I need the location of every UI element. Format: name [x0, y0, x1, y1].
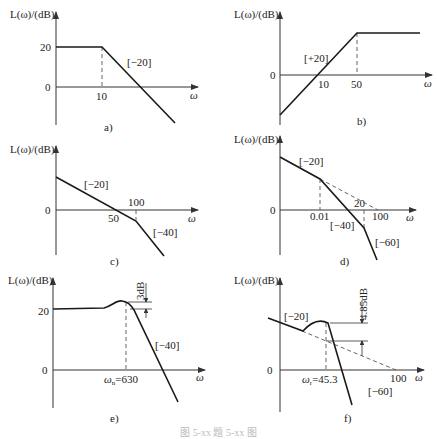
x-axis-label: ω	[190, 89, 198, 101]
tick-x-001: 0.01	[310, 210, 329, 222]
panel-label: a)	[104, 121, 113, 134]
slope-label-3: [−60]	[375, 236, 400, 248]
tick-y-0: 0	[270, 69, 276, 81]
tick-y-20: 20	[40, 41, 52, 53]
panel-b: L(ω)/(dB) ω 0 10 50 [+20] b)	[234, 8, 432, 128]
peak-label: 4.85dB	[357, 288, 369, 320]
slope-label-1: [−20]	[84, 178, 109, 190]
slope-label-2: [−40]	[330, 219, 355, 231]
slope-label: [−20]	[127, 56, 152, 68]
tick-y-0: 0	[42, 364, 48, 376]
y-axis-label: L(ω)/(dB)	[234, 274, 279, 287]
panel-label: b)	[357, 115, 367, 128]
y-axis-label: L(ω)/(dB)	[234, 8, 279, 21]
x-axis-label: ω	[188, 212, 196, 224]
tick-x-10: 10	[96, 90, 108, 102]
slope-label-1: [−20]	[299, 155, 324, 167]
x-axis-label: ω	[424, 77, 432, 89]
tick-x-20: 20	[354, 197, 366, 209]
y-axis-label: L(ω)/(dB)	[10, 8, 55, 21]
y-axis-label: L(ω)/(dB)	[234, 133, 279, 146]
magnitude-curve	[280, 33, 420, 115]
tick-y-0: 0	[270, 204, 276, 216]
tick-x-100: 100	[390, 372, 407, 384]
tick-x-100: 100	[372, 210, 389, 222]
magnitude-curve	[53, 301, 178, 402]
bode-figure: L(ω)/(dB) ω 20 0 10 [−20] a) L(ω)/(dB) ω…	[0, 0, 437, 439]
tick-x-10: 10	[318, 78, 330, 90]
panel-d: L(ω)/(dB) ω 0 0.01 20 100 [−20] [−40] [−…	[234, 133, 416, 268]
slope-label: [+20]	[304, 52, 329, 64]
slope-label-2: [−60]	[368, 385, 393, 397]
magnitude-curve	[56, 47, 175, 123]
tick-x-50: 50	[351, 78, 363, 90]
tick-x-wn: ωn=630	[104, 373, 138, 387]
x-axis-label: ω	[406, 211, 414, 223]
slope-label-1: [−20]	[284, 310, 309, 322]
tick-x-100: 100	[128, 196, 145, 208]
asymptote-extension	[320, 179, 378, 210]
x-axis-label: ω	[196, 371, 204, 383]
tick-y-0: 0	[45, 204, 51, 216]
peak-label: 3dB	[134, 282, 146, 300]
tick-y-0: 0	[267, 364, 273, 376]
asymptote-extension	[302, 331, 396, 370]
figure-caption: 图 5-xx 题 5-xx 图	[0, 424, 437, 439]
x-axis-label: ω	[415, 371, 423, 383]
y-axis-label: L(ω)/(dB)	[10, 143, 55, 156]
panel-label: c)	[110, 255, 119, 268]
slope-label-2: [−40]	[153, 226, 178, 238]
tick-y-20: 20	[38, 305, 50, 317]
tick-x-50: 50	[108, 212, 120, 224]
tick-x-wr: ωr=45.3	[302, 373, 338, 387]
panel-e: L(ω)/(dB) ω 20 0 ωn=630 3dB [−40] e)	[8, 274, 205, 425]
panel-a: L(ω)/(dB) ω 20 0 10 [−20] a)	[10, 8, 198, 134]
slope-label: [−40]	[155, 339, 180, 351]
panel-f: L(ω)/(dB) ω 0 ωr=45.3 100 4.85dB [−20] […	[234, 274, 424, 425]
y-axis-label: L(ω)/(dB)	[8, 274, 53, 287]
magnitude-curve	[268, 318, 352, 405]
panel-label: d)	[340, 255, 350, 268]
panel-c: L(ω)/(dB) ω 0 50 100 [−20] [−40] c)	[10, 143, 198, 268]
tick-y-0: 0	[45, 81, 51, 93]
